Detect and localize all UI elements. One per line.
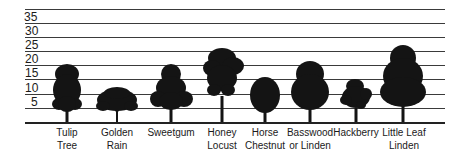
honey-locust-tree-icon [203, 48, 244, 122]
little-leaf-linden-tree-icon [380, 45, 426, 122]
x-label-little-leaf-linden: Little Leaf Linden [369, 126, 439, 152]
tree-height-chart: 35 30 25 20 15 10 5 [0, 0, 465, 156]
horse-chestnut-tree-icon [250, 77, 280, 122]
sweetgum-tree-icon [150, 64, 193, 122]
hackberry-tree-icon [340, 79, 372, 122]
golden-rain-tree-icon [96, 87, 138, 122]
tulip-tree-icon [52, 64, 82, 122]
basswood-tree-icon [291, 61, 329, 122]
